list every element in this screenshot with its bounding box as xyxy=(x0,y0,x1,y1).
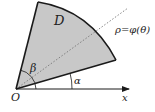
label-beta: β xyxy=(29,62,36,75)
label-origin: O xyxy=(11,91,20,104)
label-curve: ρ=φ(θ) xyxy=(114,24,150,35)
label-alpha: α xyxy=(74,75,81,86)
label-x-axis: x xyxy=(122,92,128,103)
label-region: D xyxy=(53,13,65,28)
angle-arc-alpha xyxy=(70,73,72,89)
polar-region-diagram: D ρ=φ(θ) β α O x xyxy=(0,0,155,112)
